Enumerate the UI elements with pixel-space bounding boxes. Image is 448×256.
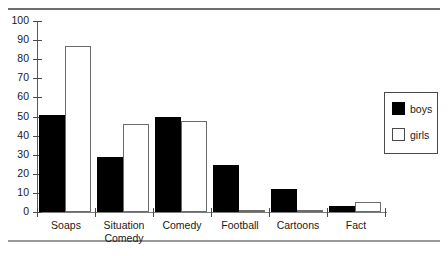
y-tick-label: 40 bbox=[17, 129, 29, 142]
y-tick-label: 80 bbox=[17, 52, 29, 65]
y-tick-label: 70 bbox=[17, 71, 29, 84]
bar-soaps-boys bbox=[39, 115, 65, 212]
y-tick: 70 bbox=[33, 78, 42, 79]
x-axis-label: Comedy bbox=[153, 219, 211, 232]
x-axis-label: Fact bbox=[327, 219, 385, 232]
bar-cartoons-boys bbox=[271, 189, 297, 212]
frame-top-rule bbox=[8, 8, 440, 10]
x-tick bbox=[385, 208, 386, 217]
y-tick-label: 50 bbox=[17, 110, 29, 123]
bar-situation-comedy-boys bbox=[97, 157, 123, 212]
y-tick-label: 0 bbox=[23, 205, 29, 218]
bar-fact-girls bbox=[355, 202, 381, 212]
x-axis-label: Soaps bbox=[37, 219, 95, 232]
legend-swatch-girls-icon bbox=[392, 128, 405, 141]
bar-football-boys bbox=[213, 165, 239, 212]
y-tick-mark bbox=[33, 40, 42, 41]
x-axis-label: Cartoons bbox=[269, 219, 327, 232]
y-tick-label: 20 bbox=[17, 167, 29, 180]
bar-cartoons-girls bbox=[297, 210, 323, 212]
y-tick-label: 100 bbox=[11, 14, 29, 27]
y-tick: 100 bbox=[33, 21, 42, 22]
bar-situation-comedy-girls bbox=[123, 124, 149, 212]
bar-fact-boys bbox=[329, 206, 355, 212]
y-tick: 60 bbox=[33, 97, 42, 98]
y-tick: 90 bbox=[33, 40, 42, 41]
y-tick-label: 60 bbox=[17, 90, 29, 103]
y-tick-mark bbox=[33, 59, 42, 60]
bar-comedy-boys bbox=[155, 117, 181, 213]
bar-football-girls bbox=[239, 210, 265, 212]
legend: boys girls bbox=[384, 92, 438, 154]
y-tick-label: 10 bbox=[17, 186, 29, 199]
legend-item-boys: boys bbox=[392, 102, 432, 115]
y-tick-mark bbox=[33, 78, 42, 79]
bar-comedy-girls bbox=[181, 121, 207, 212]
x-tick bbox=[327, 208, 328, 217]
x-tick bbox=[37, 208, 38, 217]
y-tick-label: 90 bbox=[17, 33, 29, 46]
x-tick bbox=[269, 208, 270, 217]
x-axis bbox=[37, 212, 387, 213]
bar-chart: 1009080706050403020100 SoapsSituation Co… bbox=[0, 0, 448, 256]
legend-item-girls: girls bbox=[392, 128, 429, 141]
y-tick: 80 bbox=[33, 59, 42, 60]
x-tick bbox=[153, 208, 154, 217]
y-tick-label: 30 bbox=[17, 148, 29, 161]
x-axis-label: Situation Comedy bbox=[95, 219, 153, 244]
y-tick-mark bbox=[33, 21, 42, 22]
legend-label-girls: girls bbox=[410, 129, 429, 141]
x-tick bbox=[211, 208, 212, 217]
bar-soaps-girls bbox=[65, 46, 91, 212]
frame-bottom-rule bbox=[8, 240, 440, 242]
y-tick-mark bbox=[33, 97, 42, 98]
x-axis-label: Football bbox=[211, 219, 269, 232]
legend-label-boys: boys bbox=[410, 103, 432, 115]
x-tick bbox=[95, 208, 96, 217]
legend-swatch-boys-icon bbox=[392, 102, 405, 115]
